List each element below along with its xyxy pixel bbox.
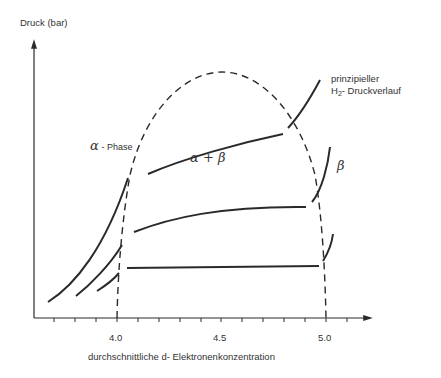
- x-axis-label: durchschnittliche d- Elektronenkonzentra…: [88, 351, 275, 362]
- annotation-line-1: prinzipieller: [331, 73, 401, 85]
- phase-diagram: [0, 0, 441, 378]
- alpha-beta-region-label: α + β: [190, 150, 225, 165]
- h2-pressure-annotation: prinzipieller H2- Druckverlauf: [331, 73, 401, 100]
- isotherm-curve-3: [97, 234, 333, 291]
- phase-boundary-dome: [117, 72, 326, 318]
- isotherm-curve-2: [76, 147, 330, 296]
- x-tick-label-5-0: 5.0: [318, 332, 331, 343]
- x-tick-label-4-0: 4.0: [109, 332, 122, 343]
- alpha-phase-text: - Phase: [101, 142, 132, 152]
- alpha-phase-label: α - Phase: [90, 138, 132, 153]
- isotherm-curve-1: [48, 80, 320, 302]
- x-tick-label-4-5: 4.5: [213, 332, 226, 343]
- annotation-line-2: H2- Druckverlauf: [331, 85, 401, 100]
- alpha-symbol: α: [90, 138, 99, 153]
- y-axis-label: Druck (bar): [20, 17, 68, 28]
- beta-phase-label: β: [337, 158, 345, 173]
